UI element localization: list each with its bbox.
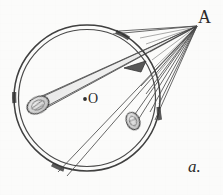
label-point-o: O (88, 92, 98, 106)
ray-5 (128, 26, 197, 124)
ray-2 (36, 26, 197, 112)
figure-caption-label: a. (188, 158, 201, 175)
ray-1 (33, 26, 197, 101)
lower-aperture-ellipse (124, 110, 143, 132)
ray-4 (67, 26, 197, 176)
figure-container: A O a. (0, 0, 223, 195)
center-dot (83, 97, 87, 101)
label-point-a: A (198, 8, 212, 26)
